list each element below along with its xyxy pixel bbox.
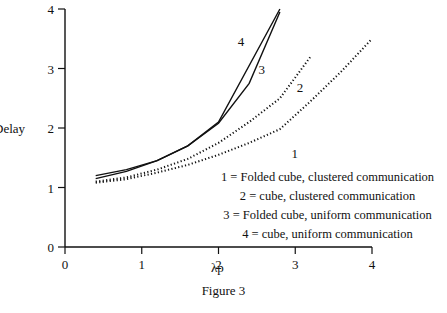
- x-tick-label: 1: [139, 257, 146, 272]
- y-tick-label: 1: [48, 181, 55, 196]
- legend-item: 1 = Folded cube, clustered communication: [205, 168, 447, 187]
- x-tick-label: 0: [62, 257, 69, 272]
- legend-item: 4 = cube, uniform communication: [205, 225, 447, 244]
- series-label-4: 4: [238, 34, 245, 49]
- legend: 1 = Folded cube, clustered communication…: [205, 168, 447, 244]
- legend-item: 2 = cube, clustered communication: [205, 187, 447, 206]
- y-tick-label: 3: [48, 62, 55, 77]
- series-label-2: 2: [297, 80, 304, 95]
- series-label-1: 1: [291, 146, 298, 161]
- series-line-2: [96, 57, 311, 182]
- y-tick-label: 0: [48, 240, 55, 255]
- legend-item: 3 = Folded cube, uniform communication: [205, 206, 447, 225]
- y-axis-label: Delay: [0, 122, 25, 136]
- x-tick-label: 3: [292, 257, 299, 272]
- series-label-3: 3: [258, 62, 265, 77]
- figure-caption: Figure 3: [0, 283, 447, 299]
- series-line-1: [96, 39, 372, 183]
- series-line-4: [96, 9, 280, 176]
- series-line-3: [96, 12, 280, 179]
- y-tick-label: 2: [48, 121, 55, 136]
- x-axis-label: λp: [211, 261, 224, 275]
- y-tick-label: 4: [48, 2, 55, 17]
- x-axis-label-text: λp: [211, 260, 224, 275]
- x-tick-label: 4: [369, 257, 376, 272]
